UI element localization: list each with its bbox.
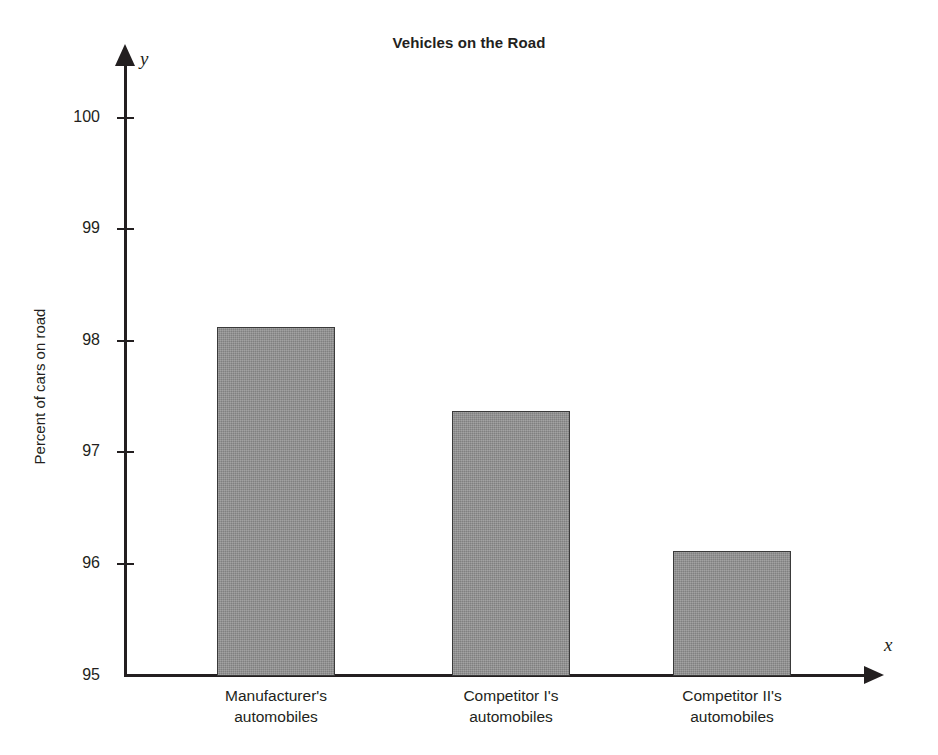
category-label-competitor-2: Competitor II's automobiles <box>622 686 842 728</box>
category-label-line-1: Manufacturer's <box>166 686 386 707</box>
y-axis-line <box>124 62 127 676</box>
y-tick-label: 96 <box>36 555 100 571</box>
bar-competitor-1[interactable] <box>452 411 570 676</box>
x-axis-letter: x <box>884 634 892 656</box>
category-label-manufacturer: Manufacturer's automobiles <box>166 686 386 728</box>
y-axis-letter: y <box>140 48 148 70</box>
category-label-competitor-1: Competitor I's automobiles <box>401 686 621 728</box>
chart-canvas: Vehicles on the Road y x Percent of cars… <box>0 0 938 755</box>
category-label-line-2: automobiles <box>622 707 842 728</box>
y-tick-label: 100 <box>36 109 100 125</box>
y-tick-mark <box>117 228 134 230</box>
y-tick-label: 99 <box>36 220 100 236</box>
y-tick-mark <box>117 340 134 342</box>
x-axis-arrow-icon <box>864 666 884 684</box>
category-label-line-2: automobiles <box>401 707 621 728</box>
y-tick-mark <box>117 117 134 119</box>
bar-manufacturer[interactable] <box>217 327 335 676</box>
y-tick-label: 97 <box>36 443 100 459</box>
category-label-line-1: Competitor II's <box>622 686 842 707</box>
y-axis-arrow-icon <box>115 44 135 66</box>
y-tick-mark <box>117 563 134 565</box>
category-label-line-2: automobiles <box>166 707 386 728</box>
bar-competitor-2[interactable] <box>673 551 791 676</box>
y-tick-label: 98 <box>36 332 100 348</box>
category-label-line-1: Competitor I's <box>401 686 621 707</box>
y-tick-label: 95 <box>36 667 100 683</box>
y-tick-mark <box>117 451 134 453</box>
